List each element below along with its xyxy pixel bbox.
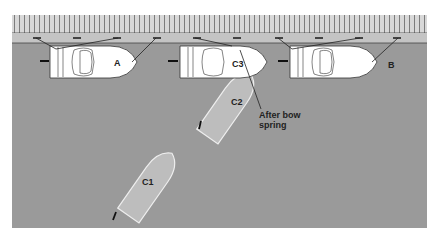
dock-planks	[12, 15, 427, 33]
boat-a	[50, 46, 137, 78]
boat-b	[290, 46, 377, 78]
docking-diagram: C1 C2 A C3 After bow spring	[0, 0, 437, 241]
label-a: A	[114, 58, 121, 68]
label-c3: C3	[232, 59, 244, 69]
label-b: B	[388, 60, 395, 70]
boat-c3	[180, 46, 267, 78]
label-c2: C2	[231, 97, 243, 107]
label-c1: C1	[142, 177, 154, 187]
